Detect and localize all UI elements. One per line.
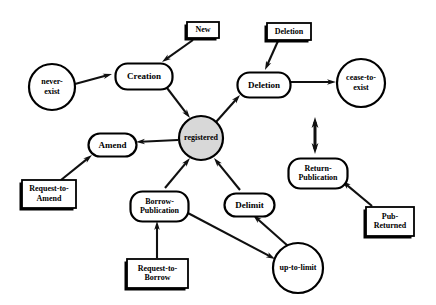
node-delimit[interactable]: Delimit [225,194,275,217]
node-label: Deletion [248,80,280,90]
node-request-to-borrow[interactable]: Request-to-Borrow [125,259,189,291]
edge-delimit-to-registered [214,158,240,190]
node-borrow-publication[interactable]: Borrow-Publication [131,192,189,222]
node-label: Delimit [235,200,264,210]
edge-request-to-amend-to-amend [61,155,92,180]
diagram-svg: never-existcease-to-existregisteredup-to… [0,0,436,305]
edge-registered-to-amend [136,139,178,145]
edge-deletion-event-to-deletion-op [265,41,278,70]
edge-borrow-publication-to-up-to-limit [186,212,275,259]
node-label-line1: cease-to- [346,73,376,82]
node-label-line1: Return- [304,164,331,173]
edge-registered-to-return-publication [312,117,319,154]
node-cease-to-exist[interactable]: cease-to-exist [337,59,385,107]
node-registered[interactable]: registered [179,116,223,160]
diagram-canvas: never-existcease-to-existregisteredup-to… [0,0,436,305]
node-label-line2: exist [353,83,369,92]
node-deletion-event[interactable]: Deletion [265,23,312,43]
node-label-line1: Request-to- [29,184,69,193]
edge-creation-to-registered [164,84,190,118]
node-label-line2: Publication [298,173,338,182]
node-amend[interactable]: Amend [89,134,137,157]
node-creation[interactable]: Creation [116,64,173,90]
node-label-line1: Borrow- [145,197,174,206]
node-label-line1: Pub- [382,212,399,221]
nodes-layer: never-existcease-to-existregisteredup-to… [20,22,415,293]
edge-borrow-publication-to-registered [165,158,190,188]
node-label-line2: Publication [140,206,180,215]
node-never-exist[interactable]: never-exist [29,64,75,110]
node-label: New [195,25,210,34]
edge-never-exist-to-creation [75,74,112,84]
node-label-line1: Request-to- [138,264,178,273]
edge-pub-returned-to-return-publication [342,181,372,206]
edge-new-to-creation [162,40,193,62]
node-label: registered [184,133,218,142]
node-label: up-to-limit [280,263,317,272]
node-deletion-op[interactable]: Deletion [238,73,291,98]
node-label-line2: Returned [374,221,407,230]
edge-up-to-limit-to-delimit [253,215,288,246]
node-up-to-limit[interactable]: up-to-limit [273,243,323,293]
edge-deletion-op-to-cease-to-exist [289,79,336,85]
edge-registered-to-deletion-op [216,95,240,122]
node-new[interactable]: New [185,22,220,41]
node-pub-returned[interactable]: Pub-Returned [364,207,415,239]
node-label-line2: Amend [37,194,62,203]
node-label-line2: Borrow [144,273,170,282]
node-label-line2: exist [44,87,60,96]
node-request-to-amend[interactable]: Request-to-Amend [20,180,77,211]
node-label: Creation [127,71,161,81]
node-label: Amend [98,140,126,150]
node-return-publication[interactable]: Return-Publication [289,159,348,189]
node-label-line1: never- [41,77,63,86]
edge-request-to-borrow-to-borrow-publication [154,221,160,258]
node-label: Deletion [275,27,304,36]
